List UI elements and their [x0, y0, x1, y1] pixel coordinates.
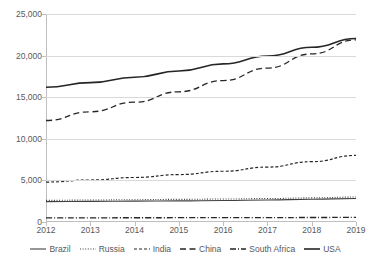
- legend-label: India: [153, 244, 171, 254]
- legend-item-usa[interactable]: USA: [304, 244, 340, 254]
- gridline: [46, 97, 356, 98]
- y-axis-tick: [42, 56, 46, 57]
- legend-swatch-icon: [180, 245, 196, 253]
- series-line-usa: [46, 39, 356, 88]
- chart-legend: BrazilRussiaIndiaChinaSouth AfricaUSA: [0, 241, 371, 257]
- legend-item-south-africa[interactable]: South Africa: [230, 244, 295, 254]
- legend-label: Brazil: [49, 244, 70, 254]
- series-line-brazil: [46, 198, 356, 201]
- y-axis-tick-label: 20,000: [16, 52, 42, 61]
- y-axis-tick: [42, 14, 46, 15]
- legend-label: USA: [323, 244, 340, 254]
- legend-swatch-icon: [30, 245, 46, 253]
- y-axis-tick-label: 15,000: [16, 93, 42, 102]
- series-layer: [46, 14, 356, 222]
- legend-label: China: [199, 244, 221, 254]
- y-axis-tick-label: 25,000: [16, 10, 42, 19]
- series-line-china: [46, 40, 356, 121]
- x-axis-tick-label: 2013: [81, 225, 100, 235]
- y-axis-tick: [42, 180, 46, 181]
- legend-swatch-icon: [304, 245, 320, 253]
- legend-swatch-icon: [134, 245, 150, 253]
- x-axis-tick-label: 2016: [214, 225, 233, 235]
- legend-item-china[interactable]: China: [180, 244, 221, 254]
- gridline: [46, 139, 356, 140]
- x-axis-tick-label: 2014: [125, 225, 144, 235]
- x-axis-tick-label: 2017: [258, 225, 277, 235]
- legend-item-brazil[interactable]: Brazil: [30, 244, 70, 254]
- legend-swatch-icon: [230, 245, 246, 253]
- x-axis-tick-label: 2012: [37, 225, 56, 235]
- y-axis-tick: [42, 97, 46, 98]
- series-line-russia: [46, 197, 356, 200]
- legend-item-india[interactable]: India: [134, 244, 171, 254]
- gridline: [46, 180, 356, 181]
- legend-swatch-icon: [80, 245, 96, 253]
- y-axis-tick-label: 10,000: [16, 135, 42, 144]
- y-axis-labels: 05,00010,00015,00020,00025,000: [0, 0, 42, 262]
- legend-item-russia[interactable]: Russia: [80, 244, 125, 254]
- y-axis-tick-label: 5,000: [21, 176, 42, 185]
- x-axis-tick-label: 2018: [302, 225, 321, 235]
- legend-label: South Africa: [249, 244, 295, 254]
- gridline: [46, 56, 356, 57]
- x-axis-labels: 20122013201420152016201720182019: [46, 225, 356, 239]
- y-axis-tick: [42, 139, 46, 140]
- plot-area: [46, 14, 356, 222]
- x-axis-tick-label: 2015: [169, 225, 188, 235]
- legend-label: Russia: [99, 244, 125, 254]
- series-line-india: [46, 155, 356, 182]
- gridline: [46, 14, 356, 15]
- x-axis-tick-label: 2019: [347, 225, 366, 235]
- line-chart: 05,00010,00015,00020,00025,000 201220132…: [0, 0, 371, 262]
